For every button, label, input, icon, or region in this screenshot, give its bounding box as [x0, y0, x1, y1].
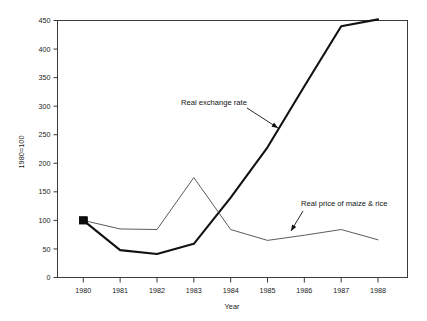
y-tick-label: 450	[39, 16, 51, 25]
chart-page: 050100150200250300350400450 198019811982…	[0, 0, 427, 321]
series-group	[83, 19, 378, 254]
y-tick-label: 0	[47, 273, 51, 282]
y-tick-label: 100	[39, 216, 51, 225]
plot-frame	[58, 21, 408, 278]
x-axis: 198019811982198319841985198619871988	[75, 278, 386, 295]
y-tick-label: 250	[39, 130, 51, 139]
start-marker-group	[79, 217, 87, 224]
x-tick-label: 1987	[333, 286, 349, 295]
y-tick-label: 300	[39, 102, 51, 111]
y-tick-label: 200	[39, 159, 51, 168]
line-chart: 050100150200250300350400450 198019811982…	[0, 0, 427, 321]
x-tick-label: 1981	[112, 286, 128, 295]
y-tick-label: 350	[39, 73, 51, 82]
x-tick-label: 1984	[223, 286, 239, 295]
x-tick-label: 1982	[149, 286, 165, 295]
y-tick-label: 50	[43, 245, 51, 254]
annotation-label-2: Real price of maize & rice	[301, 199, 388, 208]
y-tick-label: 150	[39, 187, 51, 196]
x-tick-label: 1985	[260, 286, 276, 295]
annotation-arrowhead-2	[291, 224, 296, 231]
annotation-label-1: Real exchange rate	[181, 98, 247, 107]
x-tick-label: 1988	[370, 286, 386, 295]
y-tick-label: 400	[39, 45, 51, 54]
y-axis: 050100150200250300350400450	[39, 16, 58, 282]
y-axis-title: 1980=100	[17, 135, 26, 168]
series-start-marker	[79, 217, 87, 224]
x-tick-label: 1983	[186, 286, 202, 295]
series-line-2	[83, 178, 378, 241]
x-tick-label: 1980	[75, 286, 91, 295]
series-line-1	[83, 19, 378, 254]
annotation-arrowhead-1	[271, 123, 278, 128]
x-tick-label: 1986	[296, 286, 312, 295]
x-axis-title: Year	[225, 302, 240, 311]
